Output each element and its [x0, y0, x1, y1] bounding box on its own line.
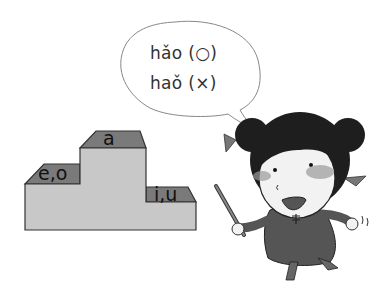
incorrect-example: haǒ (×) [150, 73, 217, 93]
correct-example: hǎo (○) [150, 43, 217, 63]
podium-left-label: e,o [38, 162, 67, 184]
illustration: hǎo (○) haǒ (×) a e,o i,u [0, 0, 386, 301]
podium-right-label: i,u [154, 183, 177, 205]
girl-character [224, 112, 368, 280]
podium-top-label: a [103, 127, 115, 149]
